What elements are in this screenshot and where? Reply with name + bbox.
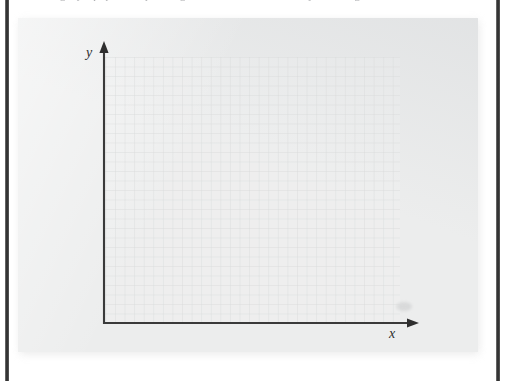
x-axis-arrowhead <box>407 318 419 327</box>
coordinate-plane-svg <box>0 0 506 381</box>
y-axis-arrowhead <box>99 41 108 53</box>
y-axis-label: y <box>86 46 92 60</box>
x-axis-label: x <box>389 327 395 341</box>
coordinate-plane: y x <box>0 0 506 381</box>
grid-area-overlay <box>103 57 400 323</box>
screenshot-root: graph paper for plotting the exercise an… <box>0 0 506 381</box>
